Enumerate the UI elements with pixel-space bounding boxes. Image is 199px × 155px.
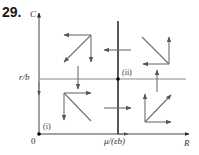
region-top-right-arrows <box>142 37 169 64</box>
phase-plane-figure: 29. <box>0 0 199 155</box>
equilibrium-ii-dot <box>116 77 120 81</box>
origin-label: 0 <box>31 136 36 146</box>
r-axis-label: R <box>184 138 190 148</box>
horizontal-nullcline-label: r/b <box>19 72 30 82</box>
region-top-left-arrows <box>64 35 91 62</box>
region-bottom-right-arrows <box>145 94 171 122</box>
c-axis-label: C <box>30 9 36 19</box>
equilibrium-i-label: (i) <box>43 122 51 131</box>
axes <box>39 13 189 134</box>
equilibrium-i-dot <box>37 132 41 136</box>
equilibrium-ii-label: (ii) <box>122 68 132 77</box>
vertical-nullcline-label: μ/(εb) <box>104 136 125 146</box>
region-bottom-left-arrows <box>64 93 91 121</box>
